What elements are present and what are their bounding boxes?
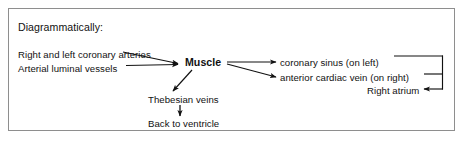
node-muscle: Muscle	[185, 57, 221, 68]
figure-page: Diagrammatically: Right and left coronar…	[0, 0, 465, 142]
node-arterial-luminal-vessels: Arterial luminal vessels	[18, 64, 117, 74]
figure-heading: Diagrammatically:	[18, 22, 103, 33]
node-back-to-ventricle: Back to ventricle	[148, 119, 219, 129]
node-coronary-sinus: coronary sinus (on left)	[280, 58, 379, 68]
node-thebesian-veins: Thebesian veins	[148, 95, 219, 105]
node-right-atrium: Right atrium	[367, 86, 419, 96]
node-anterior-cardiac-vein: anterior cardiac vein (on right)	[280, 73, 409, 83]
node-right-and-left-coronary-arteries: Right and left coronary arteries	[18, 50, 151, 60]
